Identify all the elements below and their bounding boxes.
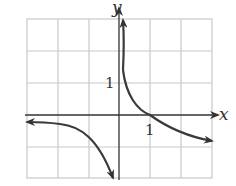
y-axis-label: y bbox=[112, 0, 122, 17]
graph bbox=[0, 0, 236, 186]
x-axis-label: x bbox=[219, 104, 229, 124]
left-branch-curve bbox=[60, 124, 113, 178]
right-branch-curve bbox=[123, 20, 124, 70]
right-branch-tail bbox=[123, 70, 212, 141]
left-branch-tail bbox=[27, 122, 60, 124]
x-tick-label: 1 bbox=[145, 121, 155, 139]
y-tick-label: 1 bbox=[105, 74, 115, 92]
